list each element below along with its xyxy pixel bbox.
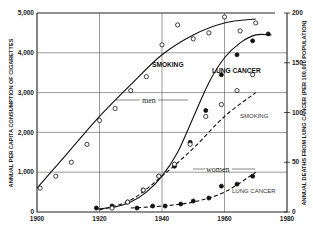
open-data-point bbox=[238, 29, 242, 33]
women-group-label: women bbox=[206, 165, 230, 174]
women-smoking-label: SMOKING bbox=[240, 113, 269, 119]
women-lung-cancer-label: LUNG CANCER bbox=[232, 188, 276, 194]
filled-data-point bbox=[207, 196, 211, 200]
open-data-point bbox=[207, 31, 211, 35]
filled-data-point bbox=[151, 204, 155, 208]
open-data-point bbox=[144, 75, 148, 79]
filled-data-point bbox=[179, 202, 183, 206]
x-tick-label: 1900 bbox=[30, 215, 45, 222]
filled-data-point bbox=[235, 182, 239, 186]
men-group-label: men bbox=[142, 96, 156, 105]
x-tick-label: 1940 bbox=[155, 215, 170, 222]
men-lung-cancer-label: LUNG CANCER bbox=[212, 67, 261, 74]
y-tick-label: 4,000 bbox=[18, 49, 35, 57]
y-right-tick-label: 50 bbox=[292, 158, 300, 165]
y-tick-label: 3,000 bbox=[18, 89, 35, 97]
filled-data-point bbox=[163, 204, 167, 208]
x-tick-label: 1980 bbox=[280, 215, 295, 222]
open-data-point bbox=[129, 89, 133, 93]
fit-curve bbox=[96, 34, 271, 209]
open-data-point bbox=[126, 200, 130, 204]
open-data-point bbox=[188, 142, 192, 146]
open-data-point bbox=[110, 206, 114, 210]
open-data-point bbox=[204, 114, 208, 118]
open-data-point bbox=[141, 188, 145, 192]
filled-data-point bbox=[251, 174, 255, 178]
y-tick-label: 1,000 bbox=[18, 168, 35, 176]
filled-data-point bbox=[219, 184, 223, 188]
open-data-point bbox=[97, 118, 101, 122]
open-data-point bbox=[254, 21, 258, 25]
open-data-point bbox=[191, 37, 195, 41]
y-axis-label-left: ANNUAL PER CAPITA CONSUMPTION OF CIGARET… bbox=[8, 38, 14, 187]
chart: 01,0002,0003,0004,0005,00019001920194019… bbox=[0, 0, 313, 234]
open-data-point bbox=[69, 160, 73, 164]
filled-data-point bbox=[191, 199, 195, 203]
filled-data-point bbox=[235, 53, 239, 57]
y-tick-label: 5,000 bbox=[18, 9, 35, 17]
open-data-point bbox=[172, 162, 176, 166]
x-tick-label: 1920 bbox=[92, 215, 107, 222]
open-data-point bbox=[54, 174, 58, 178]
y-right-tick-label: 0 bbox=[292, 208, 296, 215]
open-data-point bbox=[160, 43, 164, 47]
open-data-point bbox=[219, 102, 223, 106]
open-data-point bbox=[235, 89, 239, 93]
open-data-point bbox=[157, 174, 161, 178]
y-right-tick-label: 200 bbox=[292, 9, 303, 16]
series-men-lung-cancer bbox=[94, 32, 271, 210]
men-smoking-label: SMOKING bbox=[152, 61, 184, 68]
series-layer bbox=[37, 15, 271, 210]
open-data-point bbox=[113, 106, 117, 110]
filled-data-point bbox=[94, 206, 98, 210]
open-data-point bbox=[222, 15, 226, 19]
y-tick-label: 2,000 bbox=[18, 129, 35, 137]
filled-data-point bbox=[266, 32, 270, 36]
open-data-point bbox=[38, 186, 42, 190]
x-tick-label: 1960 bbox=[217, 215, 232, 222]
filled-data-point bbox=[251, 39, 255, 43]
filled-data-point bbox=[135, 206, 139, 210]
open-data-point bbox=[85, 142, 89, 146]
filled-data-point bbox=[204, 109, 208, 113]
y-axis-label-right: ANNUAL DEATHS FROM LUNG CANCER (PER 100,… bbox=[301, 20, 307, 205]
open-data-point bbox=[176, 23, 180, 27]
